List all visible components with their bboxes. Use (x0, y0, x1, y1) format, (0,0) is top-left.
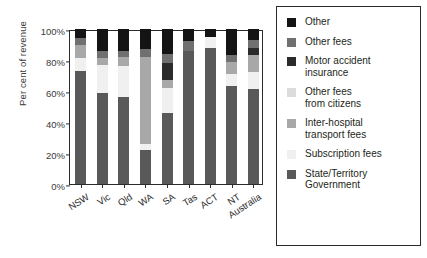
chart-area: Per cent of revenue 0%20%40%60%80%100%NS… (0, 0, 272, 258)
x-axis-tick-mark (145, 184, 146, 188)
y-axis-tick-mark (66, 30, 70, 31)
bar-segment (97, 93, 108, 184)
bar-act (205, 29, 216, 184)
bar-segment (75, 45, 86, 59)
bar-segment (205, 37, 216, 48)
legend-swatch-icon (287, 88, 296, 97)
bar-segment (75, 38, 86, 44)
bar-sa (162, 29, 173, 184)
legend-item[interactable]: Motor accident insurance (287, 55, 414, 78)
legend-label: Other fees (305, 36, 352, 48)
bar-segment (183, 51, 194, 184)
y-axis-tick-mark (66, 185, 70, 186)
bar-segment (248, 55, 259, 72)
legend-label: State/Territory Government (305, 168, 367, 191)
bar-segment (226, 74, 237, 86)
bar-wa (140, 29, 151, 184)
bar-nt (226, 29, 237, 184)
bar-segment (248, 48, 259, 56)
x-axis-tick-label: WA (137, 191, 156, 208)
chart-page: Per cent of revenue 0%20%40%60%80%100%NS… (0, 0, 427, 258)
x-axis-tick-label: NSW (66, 191, 91, 212)
bar-segment (248, 89, 259, 184)
bar-segment (140, 144, 151, 150)
bar-qld (118, 29, 129, 184)
bar-segment (226, 29, 237, 55)
chart-legend: OtherOther feesMotor accident insuranceO… (276, 6, 421, 246)
legend-swatch-icon (287, 150, 296, 159)
bar-segment (140, 49, 151, 57)
y-axis-tick-label: 40% (46, 119, 65, 130)
bar-segment (75, 29, 86, 38)
legend-item[interactable]: State/Territory Government (287, 168, 414, 191)
y-axis-tick-label: 60% (46, 88, 65, 99)
legend-swatch-icon (287, 38, 296, 47)
y-axis-tick-mark (66, 92, 70, 93)
legend-label: Other (305, 16, 330, 28)
legend-label: Inter-hospital transport fees (305, 117, 366, 140)
legend-label: Other fees from citizens (305, 86, 361, 109)
legend-item[interactable]: Other (287, 16, 414, 28)
x-axis-tick-mark (81, 184, 82, 188)
bar-segment (118, 97, 129, 184)
bar-tas (183, 29, 194, 184)
x-axis-tick-mark (102, 184, 103, 188)
x-axis-tick-mark (232, 184, 233, 188)
x-axis-tick-mark (253, 184, 254, 188)
legend-item[interactable]: Subscription fees (287, 148, 414, 160)
bar-segment (162, 54, 173, 63)
bar-segment (162, 29, 173, 54)
bar-segment (226, 86, 237, 184)
bar-segment (118, 29, 129, 51)
legend-item[interactable]: Inter-hospital transport fees (287, 117, 414, 140)
bar-segment (97, 58, 108, 64)
y-axis-label: Per cent of revenue (17, 9, 28, 119)
bar-segment (183, 41, 194, 50)
bar-segment (75, 58, 86, 70)
bar-australia (248, 29, 259, 184)
bar-segment (97, 65, 108, 93)
bar-segment (248, 40, 259, 48)
bar-segment (140, 57, 151, 144)
x-axis-tick-mark (189, 184, 190, 188)
bar-segment (140, 150, 151, 184)
bar-segment (162, 63, 173, 80)
bar-segment (226, 55, 237, 61)
bar-segment (118, 66, 129, 97)
y-axis-tick-label: 20% (46, 150, 65, 161)
legend-swatch-icon (287, 18, 296, 27)
bar-segment (205, 48, 216, 184)
bar-segment (248, 29, 259, 40)
bar-segment (205, 29, 216, 37)
y-axis-tick-mark (66, 61, 70, 62)
bar-nsw (75, 29, 86, 184)
x-axis-tick-label: Qld (115, 191, 133, 208)
plot-area: 0%20%40%60%80%100%NSWVicQldWASATasACTNTA… (69, 30, 263, 185)
y-axis-tick-label: 80% (46, 57, 65, 68)
bar-segment (183, 29, 194, 41)
y-axis-tick-label: 0% (51, 181, 65, 192)
bar-segment (97, 51, 108, 59)
legend-swatch-icon (287, 170, 296, 179)
y-axis-tick-mark (66, 123, 70, 124)
y-axis-tick-mark (66, 154, 70, 155)
bar-segment (162, 80, 173, 88)
x-axis-tick-label: Tas (180, 191, 198, 208)
bar-segment (162, 113, 173, 184)
legend-item[interactable]: Other fees from citizens (287, 86, 414, 109)
legend-swatch-icon (287, 57, 296, 66)
bar-segment (248, 72, 259, 89)
legend-label: Subscription fees (305, 148, 382, 160)
bar-segment (140, 29, 151, 49)
x-axis-tick-label: ACT (198, 191, 220, 211)
bar-segment (118, 57, 129, 66)
legend-swatch-icon (287, 119, 296, 128)
y-axis-tick-label: 100% (41, 26, 65, 37)
bar-segment (75, 71, 86, 184)
bar-segment (97, 29, 108, 51)
x-axis-tick-mark (124, 184, 125, 188)
x-axis-tick-label: Vic (95, 191, 112, 207)
legend-item[interactable]: Other fees (287, 36, 414, 48)
legend-label: Motor accident insurance (305, 55, 371, 78)
x-axis-tick-label: SA (160, 191, 177, 207)
